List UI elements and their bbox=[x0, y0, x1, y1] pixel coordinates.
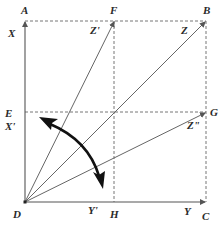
label-vector-z-double-prime: Z" bbox=[186, 119, 200, 131]
origin-point bbox=[24, 201, 27, 204]
label-point-H: H bbox=[109, 208, 119, 220]
label-point-G: G bbox=[210, 106, 218, 118]
vector-z-double-prime bbox=[25, 113, 205, 202]
vector-diagram: A F B E G D H C X X' Z' Z Z" Y' Y bbox=[0, 0, 222, 226]
label-point-F: F bbox=[109, 4, 118, 16]
label-vector-x: X bbox=[7, 27, 16, 39]
label-vector-y-prime: Y' bbox=[88, 204, 98, 216]
label-point-B: B bbox=[202, 4, 210, 16]
label-point-A: A bbox=[20, 4, 28, 16]
label-point-E: E bbox=[4, 107, 12, 119]
label-point-D: D bbox=[12, 208, 21, 220]
label-vector-z: Z bbox=[180, 24, 188, 36]
label-vector-y: Y bbox=[184, 205, 192, 217]
label-vector-x-prime: X' bbox=[4, 120, 15, 132]
label-point-C: C bbox=[202, 210, 210, 222]
label-vector-z-prime: Z' bbox=[89, 24, 100, 36]
